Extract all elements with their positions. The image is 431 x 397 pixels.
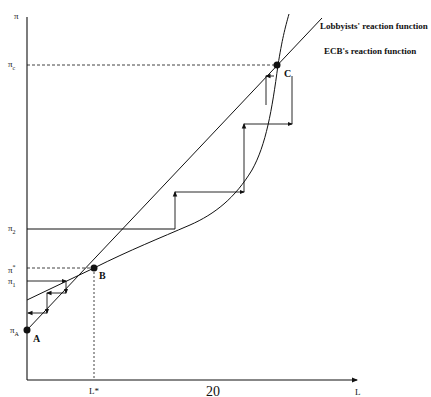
lobbyists-reaction-function (27, 14, 289, 300)
tick-pi-2: π2 (8, 224, 16, 237)
tick-l-star: L* (89, 387, 99, 396)
upper-cobweb-arrows (175, 76, 292, 229)
lobbyists-curve-label: Lobbyists' reaction function (320, 21, 428, 31)
tick-pi-1: π1 (8, 277, 16, 290)
y-axis-label: π (14, 12, 19, 21)
point-a (24, 327, 31, 334)
point-b (91, 265, 98, 272)
tick-pi-c: πc (8, 60, 15, 73)
diagram-canvas (0, 0, 431, 397)
tick-pi-star: π* (8, 263, 16, 275)
x-axis-label: L (355, 388, 361, 397)
point-b-label: B (99, 270, 106, 281)
tick-pi-a: πA (10, 326, 19, 339)
point-a-label: A (33, 333, 40, 344)
ecb-curve-label: ECB's reaction function (324, 46, 416, 56)
page-number: 20 (206, 384, 220, 397)
point-c-label: C (284, 68, 291, 79)
point-c (274, 62, 281, 69)
